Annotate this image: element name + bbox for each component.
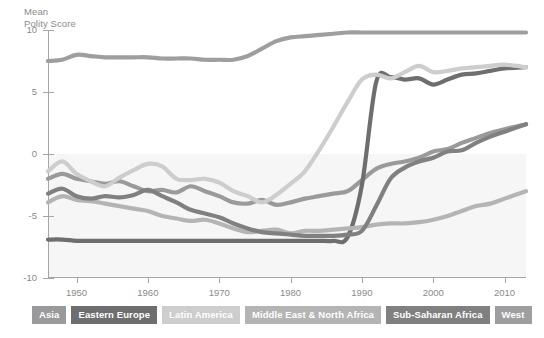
x-tick-label: 1970 bbox=[209, 287, 230, 298]
y-tick-label: 0 bbox=[32, 148, 37, 159]
polity-score-chart: Mean Polity Score 1050-5-10 195019601970… bbox=[0, 0, 544, 338]
legend-item-latin-america[interactable]: Latin America bbox=[162, 306, 240, 324]
chart-legend[interactable]: AsiaEastern EuropeLatin AmericaMiddle Ea… bbox=[32, 306, 532, 324]
legend-item-middle-east-north-africa[interactable]: Middle East & North Africa bbox=[245, 306, 381, 324]
x-tick-label: 1990 bbox=[351, 287, 372, 298]
y-tick-label: -10 bbox=[23, 272, 37, 283]
y-tick-label: 5 bbox=[32, 86, 37, 97]
series-line-eastern-europe bbox=[48, 67, 526, 242]
x-tick-label: 2010 bbox=[494, 287, 515, 298]
legend-item-sub-saharan-africa[interactable]: Sub-Saharan Africa bbox=[386, 306, 490, 324]
y-tick-label: 10 bbox=[26, 24, 37, 35]
x-tick-label: 1980 bbox=[280, 287, 301, 298]
series-line-west bbox=[48, 32, 526, 61]
series-lines bbox=[48, 30, 526, 278]
legend-item-west[interactable]: West bbox=[495, 306, 532, 324]
x-tick-label: 1960 bbox=[137, 287, 158, 298]
y-tick: -10 bbox=[43, 278, 54, 279]
y-tick-label: -5 bbox=[29, 210, 37, 221]
series-line-asia bbox=[48, 124, 526, 205]
legend-item-asia[interactable]: Asia bbox=[32, 306, 66, 324]
x-tick-label: 1950 bbox=[66, 287, 87, 298]
legend-item-eastern-europe[interactable]: Eastern Europe bbox=[71, 306, 157, 324]
plot-area: 1050-5-10 1950196019701980199020002010 bbox=[48, 30, 526, 278]
x-tick-label: 2000 bbox=[423, 287, 444, 298]
